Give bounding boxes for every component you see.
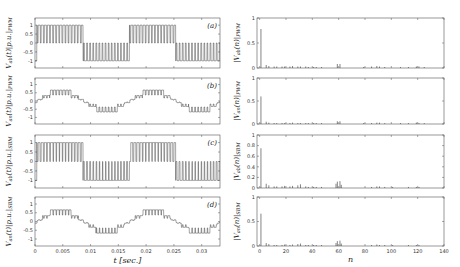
x-tick-label: 60 <box>335 248 341 254</box>
y-tick-label: 1 <box>30 22 33 28</box>
y-tick-label: 0 <box>30 218 33 224</box>
y-tick-label: 1 <box>252 15 255 21</box>
y-tick-label: 1 <box>30 139 33 145</box>
y-axis-label: |Vab(n)|PWM <box>233 22 242 62</box>
y-tick-label: 1 <box>30 201 33 207</box>
y-axis-label: |Van(n)|PWM <box>233 80 242 120</box>
y-tick-label: -1 <box>28 236 33 242</box>
axes-frame <box>35 78 220 124</box>
x-tick-label: 0.005 <box>56 248 70 254</box>
panel-label: (b) <box>207 82 217 90</box>
x-axis-label: n <box>348 255 353 264</box>
waveform-trace <box>35 90 220 112</box>
y-axis-label: Van(t)|p.u.|PWM <box>5 74 14 126</box>
y-axis-label: Vab(t)|p.u.|PWM <box>5 16 14 68</box>
axes-frame <box>257 78 444 124</box>
y-tick-label: -1 <box>28 177 33 183</box>
x-axis-label: t [sec.] <box>114 256 143 265</box>
y-tick-label: 1 <box>252 132 255 138</box>
y-tick-label: 0.5 <box>25 89 33 95</box>
figure: 10.50-0.5-1Vab(t)|p.u.|PWM(a)10.50-0.5-1… <box>0 0 460 267</box>
y-tick-label: -1 <box>28 58 33 64</box>
y-tick-label: 1 <box>252 75 255 81</box>
x-tick-label: 0.015 <box>111 248 125 254</box>
x-tick-label: 80 <box>362 248 368 254</box>
y-tick-label: 0 <box>30 40 33 46</box>
y-tick-label: 0.8 <box>247 142 255 148</box>
x-tick-label: 0 <box>33 248 36 254</box>
x-tick-label: 0.025 <box>167 248 181 254</box>
y-tick-label: -0.5 <box>23 49 33 55</box>
y-tick-label: 0.5 <box>247 218 255 224</box>
time-plot-b: 10.50-0.5-1Van(t)|p.u.|PWM(b) <box>5 74 221 126</box>
y-tick-label: 0 <box>252 243 255 249</box>
x-tick-label: 100 <box>387 248 397 254</box>
y-tick-label: 0.5 <box>247 98 255 104</box>
waveform-trace <box>35 210 220 233</box>
spectrum-plot-g: 00.20.40.60.81|Vab(n)|SBM <box>233 132 445 191</box>
y-tick-label: -0.5 <box>23 168 33 174</box>
axes-frame <box>35 197 220 246</box>
x-tick-label: 0.03 <box>196 248 207 254</box>
spectrum-plot-e: 00.51|Vab(n)|PWM <box>233 15 445 71</box>
y-tick-label: 0.5 <box>25 149 33 155</box>
y-tick-label: 1 <box>30 81 33 87</box>
y-tick-label: 0 <box>30 158 33 164</box>
time-plot-d: 10.50-0.5-100.0050.010.0150.020.0250.03t… <box>5 196 221 265</box>
y-tick-label: 1 <box>252 194 255 200</box>
panel-label: (c) <box>208 139 218 147</box>
x-tick-label: 40 <box>309 248 315 254</box>
y-tick-label: 0.5 <box>25 31 33 37</box>
y-tick-label: -0.5 <box>23 227 33 233</box>
waveform-trace <box>35 143 220 181</box>
x-tick-label: 0 <box>258 248 261 254</box>
spectrum-plot-h: 00.51020406080100120140n|Van(n)|SBM <box>233 194 449 264</box>
y-axis-label: Van(t)|p.u.|SBM <box>5 196 14 247</box>
axes-frame <box>257 135 444 188</box>
panel-label: (a) <box>207 22 217 30</box>
y-tick-label: 0 <box>30 98 33 104</box>
x-tick-label: 120 <box>413 248 423 254</box>
y-tick-label: 0 <box>252 65 255 71</box>
axes-frame <box>257 197 444 246</box>
x-tick-label: 20 <box>283 248 289 254</box>
y-axis-label: |Van(n)|SBM <box>233 202 242 241</box>
panel-label: (d) <box>207 201 217 209</box>
y-axis-label: |Vab(n)|SBM <box>233 142 242 181</box>
waveform-trace <box>35 25 220 61</box>
spectrum-plot-f: 00.51|Van(n)|PWM <box>233 75 445 127</box>
y-tick-label: 0.5 <box>25 209 33 215</box>
y-tick-label: 0.2 <box>247 174 255 180</box>
time-plot-a: 10.50-0.5-1Vab(t)|p.u.|PWM(a) <box>5 16 221 68</box>
y-axis-label: Vab(t)|p.u.|SBM <box>5 136 14 187</box>
axes-frame <box>257 18 444 68</box>
x-tick-label: 0.02 <box>141 248 152 254</box>
y-tick-label: 0 <box>252 121 255 127</box>
y-tick-label: -0.5 <box>23 106 33 112</box>
time-plot-c: 10.50-0.5-1Vab(t)|p.u.|SBM(c) <box>5 135 221 188</box>
y-tick-label: 0.5 <box>247 40 255 46</box>
y-tick-label: 0 <box>252 185 255 191</box>
y-tick-label: 0.4 <box>247 164 255 170</box>
y-tick-label: 0.6 <box>247 153 255 159</box>
x-tick-label: 140 <box>439 248 449 254</box>
y-tick-label: -1 <box>28 114 33 120</box>
x-tick-label: 0.01 <box>85 248 96 254</box>
